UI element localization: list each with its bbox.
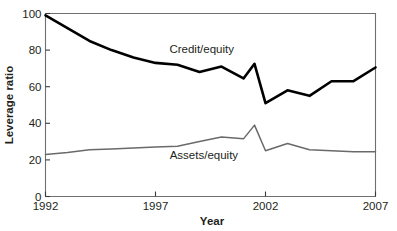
x-tick-label: 1992 [33,200,59,212]
leverage-ratio-chart: 020406080100 1992199720022007 Credit/equ… [0,0,397,231]
y-axis-title: Leverage ratio [3,66,15,145]
chart-svg: 020406080100 1992199720022007 Credit/equ… [0,0,397,231]
y-tick-label: 20 [29,154,42,166]
x-tick-label: 1997 [143,200,169,212]
x-tick-label: 2007 [363,200,389,212]
x-axis-title: Year [200,215,225,227]
y-tick-label: 60 [29,81,42,93]
y-tick-label: 100 [22,8,41,20]
y-tick-label: 80 [29,44,42,56]
y-tick-label: 40 [29,117,42,129]
x-tick-label: 2002 [253,200,279,212]
series-label-credit-equity: Credit/equity [169,43,234,55]
series-label-assets-equity: Assets/equity [170,149,239,161]
